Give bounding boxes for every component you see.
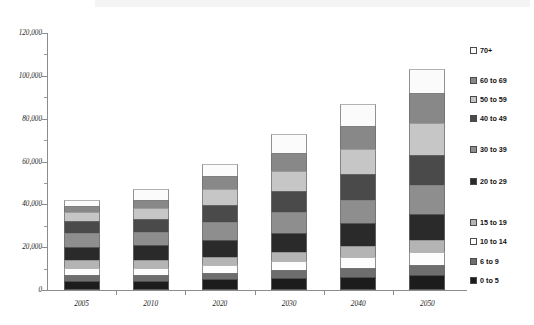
bar-segment <box>340 246 376 256</box>
legend-item: 60 to 69 <box>470 77 507 84</box>
bar-segment <box>64 233 100 246</box>
legend-swatch <box>470 219 477 226</box>
bar-segment <box>202 279 238 289</box>
y-axis-tick-label: 120,000 <box>0 29 42 37</box>
legend-item: 40 to 49 <box>470 115 507 122</box>
legend-item-label: 6 to 9 <box>480 258 499 265</box>
legend-swatch <box>470 146 477 153</box>
bar-segment <box>271 233 307 253</box>
bar-segment <box>133 200 169 208</box>
bar-segment <box>409 240 445 252</box>
legend-swatch <box>470 77 477 84</box>
legend-item-label: 30 to 39 <box>480 146 507 153</box>
legend-item: 15 to 19 <box>470 219 507 226</box>
bar-segment <box>202 265 238 273</box>
bar-segment <box>340 149 376 174</box>
legend-item: 6 to 9 <box>470 258 499 265</box>
bar-segment <box>202 205 238 222</box>
bar-segment <box>271 261 307 270</box>
legend-item: 50 to 59 <box>470 96 507 103</box>
legend-item-label: 15 to 19 <box>480 219 507 226</box>
bar-segment <box>271 278 307 290</box>
bar-segment <box>340 200 376 224</box>
bar-segment <box>271 252 307 261</box>
bar-segment <box>202 176 238 189</box>
bar-segment <box>340 174 376 199</box>
bar-segment <box>271 270 307 278</box>
bar-segment <box>340 126 376 149</box>
bar-segment <box>409 93 445 123</box>
legend-item: 20 to 29 <box>470 178 507 185</box>
bar-column <box>340 104 376 290</box>
bar-segment <box>133 208 169 219</box>
y-axis-tick <box>42 290 47 291</box>
legend-swatch <box>470 277 477 284</box>
x-axis-tick-label: 2050 <box>397 299 457 308</box>
legend-swatch <box>470 96 477 103</box>
legend-swatch <box>470 238 477 245</box>
x-axis-tick-label: 2005 <box>52 299 112 308</box>
bar-segment <box>409 275 445 290</box>
plot-area <box>47 33 462 290</box>
legend-item: 10 to 14 <box>470 238 507 245</box>
bar-segment <box>340 223 376 246</box>
bar-segment <box>64 281 100 290</box>
x-axis-tick-label: 2040 <box>328 299 388 308</box>
legend-item: 30 to 39 <box>470 146 507 153</box>
stacked-bar-chart: 020,00040,00060,00080,000100,000120,000 … <box>0 0 534 325</box>
bar-segment <box>271 191 307 213</box>
bar-segment <box>133 260 169 267</box>
bar-segment <box>340 257 376 268</box>
bar-column <box>64 200 100 290</box>
bar-segment <box>133 281 169 290</box>
bar-segment <box>271 134 307 153</box>
y-axis-tick-label: 80,000 <box>0 115 42 123</box>
bar-segment <box>133 245 169 260</box>
bar-segment <box>133 232 169 245</box>
bar-segment <box>202 164 238 176</box>
y-axis-tick-label: 20,000 <box>0 243 42 251</box>
bar-segment <box>409 185 445 213</box>
legend-swatch <box>470 115 477 122</box>
bar-segment <box>133 219 169 232</box>
bar-segment <box>202 273 238 280</box>
bar-segment <box>340 277 376 290</box>
legend-item-label: 40 to 49 <box>480 115 507 122</box>
bar-segment <box>409 155 445 186</box>
x-axis-tick <box>324 290 325 295</box>
bar-segment <box>271 212 307 232</box>
bar-segment <box>202 189 238 205</box>
bar-segment <box>133 189 169 200</box>
bar-segment <box>133 268 169 275</box>
bar-segment <box>271 171 307 191</box>
y-axis-tick-label: 60,000 <box>0 158 42 166</box>
bar-column <box>202 164 238 290</box>
x-axis-tick <box>116 290 117 295</box>
bar-segment <box>409 214 445 240</box>
bar-segment <box>64 247 100 261</box>
legend-swatch <box>470 178 477 185</box>
bar-column <box>409 69 445 290</box>
y-axis-tick-label: 0 <box>0 286 42 294</box>
bar-segment <box>409 69 445 93</box>
legend-item-label: 20 to 29 <box>480 178 507 185</box>
bar-segment <box>202 222 238 240</box>
bar-segment <box>64 221 100 233</box>
y-axis-tick-label: 100,000 <box>0 72 42 80</box>
bar-column <box>271 134 307 290</box>
x-axis-tick <box>255 290 256 295</box>
legend-item-label: 70+ <box>480 47 492 54</box>
x-axis-line <box>47 290 467 291</box>
bar-segment <box>271 153 307 171</box>
x-axis-tick-label: 2010 <box>121 299 181 308</box>
legend-item-label: 0 to 5 <box>480 277 499 284</box>
bar-segment <box>409 252 445 265</box>
legend-item-label: 10 to 14 <box>480 238 507 245</box>
legend-item-label: 50 to 59 <box>480 96 507 103</box>
legend-swatch <box>470 47 477 54</box>
legend-swatch <box>470 258 477 265</box>
x-axis-tick-label: 2020 <box>190 299 250 308</box>
bar-segment <box>202 257 238 264</box>
bar-segment <box>202 240 238 258</box>
bar-column <box>133 189 169 290</box>
